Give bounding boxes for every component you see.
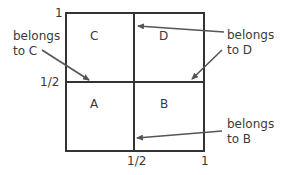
region-label-b: B	[160, 97, 168, 111]
annotation-c-line1: belongs	[13, 29, 60, 44]
arrow-to-b-boundary	[137, 131, 222, 138]
annotation-belongs-to-b: belongs to B	[227, 117, 274, 147]
y-axis-label-1: 1	[55, 6, 63, 20]
annotation-b-line2: to B	[227, 132, 274, 147]
annotation-c-line2: to C	[13, 44, 60, 59]
region-label-c: C	[90, 29, 98, 43]
x-axis-label-half: 1/2	[127, 154, 146, 168]
arrow-to-d-horizontal-boundary	[192, 50, 222, 79]
annotation-belongs-to-c: belongs to C	[13, 29, 60, 59]
annotation-b-line1: belongs	[227, 117, 274, 132]
arrow-to-d-vertical-boundary	[138, 26, 224, 32]
annotation-d-line2: to D	[227, 43, 274, 58]
x-axis-label-1: 1	[201, 154, 209, 168]
annotation-d-line1: belongs	[227, 28, 274, 43]
y-axis-label-half: 1/2	[40, 75, 59, 89]
region-label-d: D	[159, 29, 168, 43]
region-label-a: A	[90, 97, 98, 111]
annotation-belongs-to-d: belongs to D	[227, 28, 274, 58]
